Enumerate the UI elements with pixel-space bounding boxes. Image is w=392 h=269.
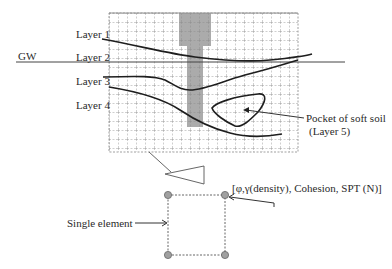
zoom-callout xyxy=(149,152,204,184)
pocket-sublabel: (Layer 5) xyxy=(309,125,350,137)
properties-arrow xyxy=(229,194,274,207)
node-top-left xyxy=(164,191,171,198)
pocket-label: Pocket of soft soil xyxy=(306,112,386,124)
node-bottom-left xyxy=(164,251,171,258)
gw-label: GW xyxy=(18,50,36,62)
layer4-label: Layer 4 xyxy=(76,99,110,111)
single-element-arrow xyxy=(135,220,167,226)
layer1-label: Layer 1 xyxy=(76,28,110,40)
node-bottom-right xyxy=(221,251,228,258)
properties-label: [φ,γ(density), Cohesion, SPT (N)] xyxy=(232,182,382,194)
node-top-right xyxy=(221,191,228,198)
mesh-grid xyxy=(109,13,298,152)
single-element xyxy=(164,191,228,258)
single-element-label: Single element xyxy=(67,217,133,229)
layer3-label: Layer 3 xyxy=(76,75,110,87)
layer2-label: Layer 2 xyxy=(76,51,110,63)
